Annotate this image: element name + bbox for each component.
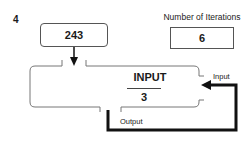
- machine-outline: [30, 60, 204, 112]
- input-label: Input: [213, 72, 230, 81]
- rule-denominator: 3: [120, 91, 168, 103]
- start-value-box: 243: [40, 23, 108, 47]
- fraction-bar: [127, 88, 161, 89]
- iterations-box[interactable]: 6: [170, 27, 234, 49]
- iterations-value: 6: [199, 32, 205, 44]
- rule-numerator: INPUT: [120, 71, 180, 83]
- down-arrow-icon: [70, 57, 78, 66]
- left-arrow-icon: [201, 80, 211, 90]
- question-number: 4: [13, 14, 19, 25]
- iterations-label: Number of Iterations: [162, 12, 242, 22]
- start-value: 243: [65, 29, 83, 41]
- output-label: Output: [120, 117, 143, 126]
